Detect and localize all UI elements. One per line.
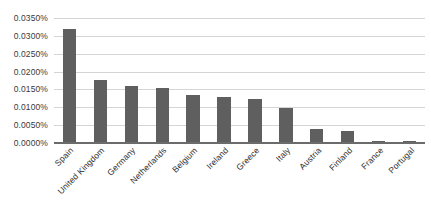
bar-slot [301, 18, 332, 143]
y-axis-tick-label: 0.0050% [14, 121, 48, 130]
bar-slot [85, 18, 116, 143]
y-axis-tick-label: 0.0350% [14, 14, 48, 23]
bar-slot [332, 18, 363, 143]
bar-slot [394, 18, 425, 143]
y-axis-tick-label: 0.0100% [14, 103, 48, 112]
x-axis-tick-label: Austria [298, 146, 323, 171]
y-axis-tick-label: 0.0250% [14, 49, 48, 58]
bar-slot [178, 18, 209, 143]
bar-slot [147, 18, 178, 143]
bar-slot [270, 18, 301, 143]
bar[interactable] [63, 29, 76, 143]
y-axis-tick-label: 0.0300% [14, 32, 48, 41]
y-axis: 0.0350%0.0300%0.0250%0.0200%0.0150%0.010… [0, 0, 54, 216]
y-axis-tick-label: 0.0150% [14, 85, 48, 94]
plot-area [54, 18, 425, 143]
bar[interactable] [248, 99, 261, 143]
x-axis: SpainUnited KingdomGermanyNetherlandsBel… [54, 144, 425, 216]
y-axis-tick-label: 0.0200% [14, 67, 48, 76]
bar[interactable] [310, 129, 323, 143]
bar-slot [116, 18, 147, 143]
x-axis-tick-label: Ireland [205, 146, 230, 171]
x-axis-tick-label: Portugal [387, 146, 416, 175]
x-axis-tick-label: Spain [54, 146, 76, 168]
x-axis-tick-label: Italy [274, 146, 291, 163]
bar[interactable] [217, 97, 230, 143]
bar-slot [363, 18, 394, 143]
bar-chart: 0.0350%0.0300%0.0250%0.0200%0.0150%0.010… [0, 0, 431, 216]
bar[interactable] [125, 86, 138, 143]
bar[interactable] [186, 95, 199, 143]
bar-slot [54, 18, 85, 143]
bar[interactable] [94, 80, 107, 143]
bars-group [54, 18, 425, 143]
bar-slot [240, 18, 271, 143]
x-axis-tick-label: Belgium [171, 146, 199, 174]
bar-slot [209, 18, 240, 143]
x-axis-tick-label: Finland [327, 146, 353, 172]
x-axis-tick-label: France [359, 146, 384, 171]
bar[interactable] [279, 108, 292, 143]
bar[interactable] [156, 88, 169, 143]
x-axis-tick-label: Greece [235, 146, 261, 172]
y-axis-tick-label: 0.0000% [14, 139, 48, 148]
